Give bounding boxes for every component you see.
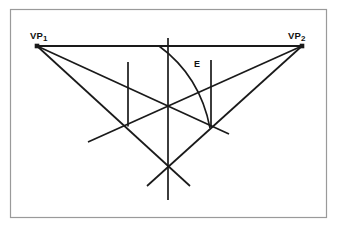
vp1-label-text: VP [30, 30, 44, 41]
eye-point-label: E [194, 59, 200, 69]
vp2-label-subscript: 2 [301, 34, 306, 43]
perspective-figure: VP1 VP2 E [0, 0, 337, 230]
vp2-label-text: VP [288, 30, 302, 41]
vp1-label-subscript: 1 [43, 34, 48, 43]
vp1-square-marker [35, 44, 40, 49]
vp2-square-marker [300, 44, 305, 49]
figure-canvas: VP1 VP2 E [0, 0, 337, 230]
